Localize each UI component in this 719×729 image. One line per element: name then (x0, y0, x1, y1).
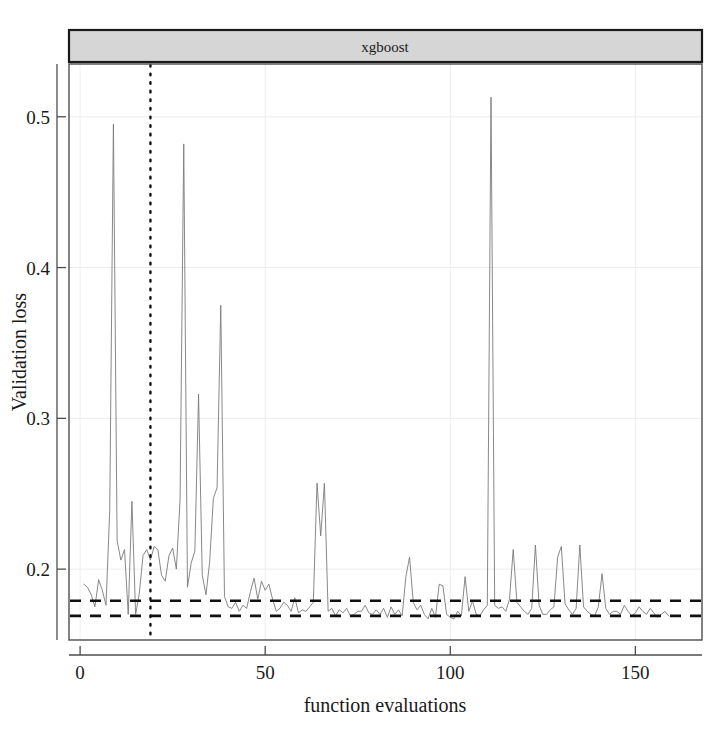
x-axis-tick-label: 100 (436, 662, 465, 683)
chart-figure: xgboost 050100150 0.20.30.40.5 function … (0, 0, 719, 729)
chart-canvas: xgboost 050100150 0.20.30.40.5 function … (0, 0, 719, 729)
plot-area-background (69, 64, 702, 640)
plot-panel (69, 64, 702, 640)
x-axis-title: function evaluations (304, 694, 467, 716)
y-axis-tick-label: 0.2 (26, 559, 50, 580)
y-axis-tick-label: 0.5 (26, 107, 50, 128)
x-axis-tick-label: 150 (621, 662, 650, 683)
x-axis-tick-label: 50 (256, 662, 275, 683)
x-axis-tick-label: 0 (75, 662, 85, 683)
panel-strip: xgboost (69, 30, 702, 62)
y-axis-title: Validation loss (8, 293, 30, 412)
panel-strip-label: xgboost (361, 39, 409, 55)
y-axis-tick-label: 0.4 (26, 258, 50, 279)
